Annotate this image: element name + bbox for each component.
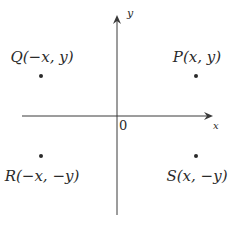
point-r-dot xyxy=(39,154,43,158)
origin-label: 0 xyxy=(119,118,127,133)
point-p-label: P(x, y) xyxy=(172,48,221,66)
point-r-label: R(−x, −y) xyxy=(4,167,80,185)
point-p-dot xyxy=(194,74,198,78)
x-axis-label: x xyxy=(213,120,219,131)
y-axis-label: y xyxy=(126,7,134,20)
point-q-label: Q(−x, y) xyxy=(10,48,73,66)
point-q-dot xyxy=(39,74,43,78)
point-s-dot xyxy=(194,154,198,158)
coordinate-plane-diagram: y x 0 Q(−x, y) P(x, y) R(−x, −y) S(x, −y… xyxy=(0,0,233,225)
point-s-label: S(x, −y) xyxy=(166,167,227,185)
